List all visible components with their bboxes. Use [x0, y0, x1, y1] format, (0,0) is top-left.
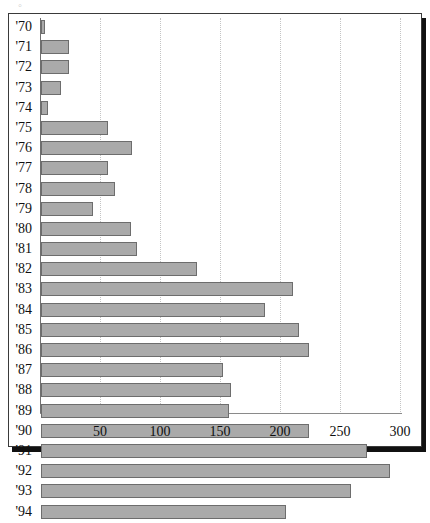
- category-label: '77: [15, 158, 32, 178]
- category-label: '75: [15, 118, 32, 138]
- bar-row: '88: [41, 381, 402, 401]
- category-label: '83: [15, 279, 32, 299]
- category-label: '94: [15, 502, 32, 522]
- bar-row: '77: [41, 159, 402, 179]
- bar: [41, 182, 115, 196]
- bar: [41, 101, 48, 115]
- category-label: '89: [15, 401, 32, 421]
- category-label: '82: [15, 259, 32, 279]
- bar-row: '72: [41, 58, 402, 78]
- bar-row: '85: [41, 321, 402, 341]
- bar: [41, 20, 45, 34]
- bar: [41, 343, 309, 357]
- bar-row: '83: [41, 280, 402, 300]
- bar-row: '78: [41, 180, 402, 200]
- x-tick-label: 250: [330, 424, 351, 440]
- bar: [41, 222, 131, 236]
- bar: [41, 40, 69, 54]
- bar-row: '71: [41, 38, 402, 58]
- bar: [41, 505, 286, 519]
- category-label: '90: [15, 421, 32, 441]
- bar-row: '93: [41, 482, 402, 502]
- bar-series: '70'71'72'73'74'75'76'77'78'79'80'81'82'…: [41, 18, 402, 414]
- category-label: '79: [15, 199, 32, 219]
- bar: [41, 121, 108, 135]
- bar: [41, 282, 293, 296]
- category-label: '88: [15, 380, 32, 400]
- category-label: '92: [15, 461, 32, 481]
- bar: [41, 161, 108, 175]
- bar-row: '82: [41, 260, 402, 280]
- category-label: '74: [15, 98, 32, 118]
- bar: [41, 60, 69, 74]
- bar-row: '73: [41, 79, 402, 99]
- bar: [41, 464, 390, 478]
- bar-row: '92: [41, 462, 402, 482]
- category-label: '73: [15, 78, 32, 98]
- x-tick-label: 300: [390, 424, 411, 440]
- bar: [41, 363, 223, 377]
- x-tick-label: 50: [93, 424, 107, 440]
- bar-row: '74: [41, 99, 402, 119]
- bar-row: '70: [41, 18, 402, 38]
- category-label: '81: [15, 239, 32, 259]
- scan-artifact-mark: ◦: [18, 0, 30, 10]
- category-label: '76: [15, 138, 32, 158]
- x-tick-label: 200: [270, 424, 291, 440]
- bar: [41, 242, 137, 256]
- category-label: '93: [15, 481, 32, 501]
- category-label: '72: [15, 57, 32, 77]
- category-label: '91: [15, 441, 32, 461]
- category-label: '86: [15, 340, 32, 360]
- category-label: '80: [15, 219, 32, 239]
- category-label: '70: [15, 17, 32, 37]
- x-axis-tick-labels: 50100150200250300: [40, 424, 402, 446]
- bar: [41, 323, 299, 337]
- bar-row: '75: [41, 119, 402, 139]
- bar: [41, 81, 61, 95]
- bar: [41, 484, 351, 498]
- category-label: '85: [15, 320, 32, 340]
- x-tick-label: 100: [150, 424, 171, 440]
- bar: [41, 141, 132, 155]
- bar-row: '84: [41, 301, 402, 321]
- plot-area: '70'71'72'73'74'75'76'77'78'79'80'81'82'…: [40, 18, 402, 414]
- bar: [41, 383, 231, 397]
- bar-row: '86: [41, 341, 402, 361]
- category-label: '78: [15, 179, 32, 199]
- x-tick-label: 150: [210, 424, 231, 440]
- bar-row: '87: [41, 361, 402, 381]
- bar: [41, 404, 229, 418]
- bar-row: '76: [41, 139, 402, 159]
- bar-row: '80: [41, 220, 402, 240]
- category-label: '84: [15, 300, 32, 320]
- bar: [41, 262, 197, 276]
- category-label: '71: [15, 37, 32, 57]
- bar: [41, 444, 367, 458]
- category-label: '87: [15, 360, 32, 380]
- bar: [41, 303, 265, 317]
- bar-row: '79: [41, 200, 402, 220]
- bar-row: '94: [41, 503, 402, 523]
- bar: [41, 202, 93, 216]
- bar-row: '89: [41, 402, 402, 422]
- bar-row: '81: [41, 240, 402, 260]
